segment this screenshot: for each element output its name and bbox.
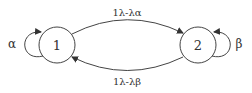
- loop-label-2: β: [236, 37, 243, 51]
- state-diagram: 1λ-λα 1λ-λβ α β 1 2: [0, 0, 252, 93]
- edge-1-to-2: [72, 20, 183, 34]
- edge-label-1-to-2: 1λ-λα: [112, 7, 141, 18]
- edge-label-2-to-1: 1λ-λβ: [113, 76, 141, 87]
- node-2-label: 2: [194, 38, 202, 53]
- edge-2-to-1: [72, 57, 183, 71]
- node-2: 2: [180, 27, 216, 63]
- node-1: 1: [39, 27, 75, 63]
- loop-label-1: α: [8, 37, 16, 51]
- node-1-label: 1: [53, 38, 61, 53]
